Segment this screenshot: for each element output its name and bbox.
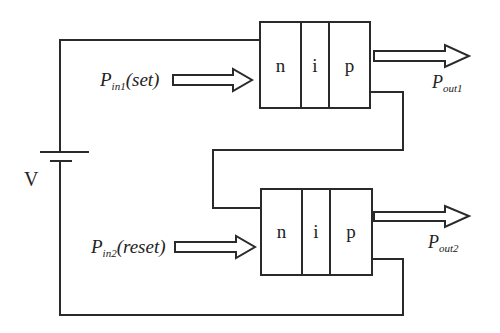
input-label-reset-subscript: in2 <box>103 247 117 259</box>
input-label-reset-symbol: P <box>91 236 103 257</box>
input-label-set-subscript: in1 <box>112 80 126 92</box>
bottom-device-layer-i: i <box>302 222 330 241</box>
input-label-set-symbol: P <box>100 69 112 90</box>
top-device-layer-i: i <box>301 56 329 75</box>
input-label-reset-suffix: (reset) <box>117 236 166 257</box>
voltage-label: V <box>24 169 38 189</box>
output-arrow-2 <box>374 206 469 227</box>
output-label-2: Pout2 <box>428 233 459 251</box>
top-device-layer-n: n <box>260 56 301 75</box>
output-label-1: Pout1 <box>432 73 463 91</box>
output-label-1-subscript: out1 <box>443 82 463 94</box>
output-label-1-symbol: P <box>432 72 443 92</box>
top-device-layer-p: p <box>329 56 370 75</box>
wire-battery-to-top-device <box>60 40 260 152</box>
input-label-set: Pin1(set) <box>100 70 159 89</box>
input-arrow-set <box>173 69 252 91</box>
output-arrow-1 <box>374 45 469 67</box>
input-label-set-suffix: (set) <box>126 69 160 90</box>
bottom-device-layer-p: p <box>330 222 372 241</box>
input-arrow-reset <box>175 236 255 258</box>
wire-series-connection <box>213 92 403 208</box>
bottom-device-layer-n: n <box>261 222 302 241</box>
output-label-2-symbol: P <box>428 232 439 252</box>
output-label-2-subscript: out2 <box>439 242 459 254</box>
circuit-diagram <box>0 0 500 333</box>
input-label-reset: Pin2(reset) <box>91 237 166 256</box>
